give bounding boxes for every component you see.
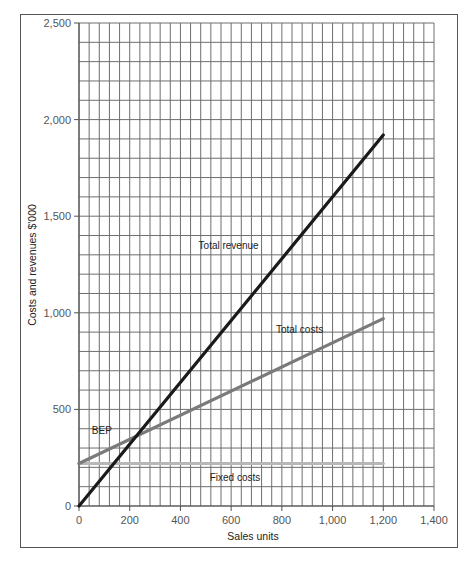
y-tick-label: 500 [53,403,71,415]
y-tick-label: 2,000 [43,114,71,126]
x-tick-label: 400 [171,514,189,526]
y-tick-label: 0 [65,500,71,512]
y-axis-label: Costs and revenues $'000 [26,204,38,326]
grid-lines [79,23,434,506]
x-tick-label: 600 [222,514,240,526]
x-tick-label: 1,400 [420,514,448,526]
axes: 02004006008001,0001,2001,40005001,0001,5… [43,17,447,526]
x-tick-label: 1,200 [370,514,398,526]
break-even-chart: 02004006008001,0001,2001,40005001,0001,5… [0,0,475,564]
x-tick-label: 800 [273,514,291,526]
y-tick-label: 1,500 [43,210,71,222]
bep-label: BEP [92,425,112,436]
fixed-costs-label: Fixed costs [210,472,261,483]
x-axis-label: Sales units [227,530,278,542]
total-costs-label: Total costs [276,324,323,335]
y-tick-label: 1,000 [43,307,71,319]
total-revenue-label: Total revenue [199,240,259,251]
x-tick-label: 1,000 [319,514,347,526]
y-tick-label: 2,500 [43,17,71,29]
x-tick-label: 200 [121,514,139,526]
x-tick-label: 0 [76,514,82,526]
